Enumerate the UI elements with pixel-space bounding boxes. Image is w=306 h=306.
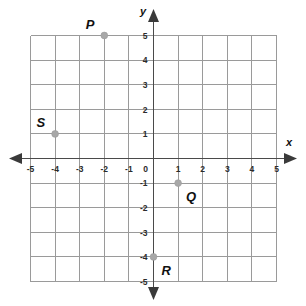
y-axis-top-arrowhead — [148, 9, 159, 22]
x-tick-label: 5 — [274, 164, 279, 174]
point-label-q: Q — [186, 189, 196, 204]
axis-names: x y — [139, 5, 293, 148]
x-axis-right-arrowhead — [284, 153, 297, 164]
x-tick-label: -2 — [101, 164, 109, 174]
y-tick-label: -1 — [140, 178, 148, 188]
plotted-point-q — [175, 180, 182, 187]
x-tick-label: 0 — [143, 164, 148, 174]
x-tick-label: 3 — [225, 164, 230, 174]
y-tick-label: 4 — [143, 55, 148, 65]
x-tick-label: -5 — [27, 164, 35, 174]
y-tick-label: -4 — [140, 252, 148, 262]
y-tick-label: 5 — [143, 31, 148, 41]
coordinate-plane-figure: -5-4-3-2-1012345-5-4-3-2-112345 x y PSQR — [0, 0, 306, 306]
point-label-p: P — [86, 17, 95, 32]
point-label-r: R — [162, 263, 172, 278]
plotted-point-s — [52, 131, 59, 138]
x-tick-label: 2 — [200, 164, 205, 174]
plotted-point-p — [101, 32, 108, 39]
plotted-point-r — [150, 254, 157, 261]
x-tick-label: -3 — [76, 164, 84, 174]
y-tick-label: 2 — [143, 105, 148, 115]
x-axis-label: x — [285, 136, 293, 148]
y-tick-label: -5 — [140, 277, 148, 287]
x-tick-label: 4 — [250, 164, 255, 174]
y-tick-label: 1 — [143, 129, 148, 139]
y-tick-label: -3 — [140, 228, 148, 238]
plotted-points: PSQR — [36, 17, 196, 278]
y-axis-label: y — [139, 5, 147, 17]
x-tick-label: -1 — [125, 164, 133, 174]
y-tick-label: 3 — [143, 80, 148, 90]
x-tick-label: -4 — [51, 164, 59, 174]
x-axis-left-arrowhead — [9, 153, 22, 164]
coordinate-grid-svg: -5-4-3-2-1012345-5-4-3-2-112345 x y PSQR — [0, 0, 306, 306]
point-label-s: S — [36, 115, 45, 130]
y-tick-label: -2 — [140, 203, 148, 213]
x-tick-label: 1 — [176, 164, 181, 174]
y-axis-bottom-arrowhead — [148, 287, 159, 300]
